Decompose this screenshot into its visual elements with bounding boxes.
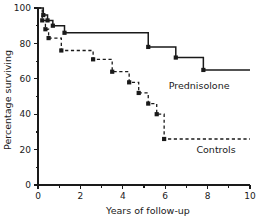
event-marker <box>47 36 51 40</box>
event-marker <box>201 68 205 72</box>
x-tick-label: 6 <box>162 191 168 201</box>
event-marker <box>162 137 166 141</box>
x-tick-label: 0 <box>35 191 41 201</box>
event-marker <box>110 70 114 74</box>
x-tick-label: 10 <box>244 191 256 201</box>
event-marker <box>146 45 150 49</box>
y-tick-label: 60 <box>20 74 32 84</box>
y-tick-label: 40 <box>20 109 32 119</box>
x-tick-label: 2 <box>78 191 84 201</box>
event-marker <box>127 80 131 84</box>
event-marker <box>59 48 63 52</box>
event-marker <box>137 91 141 95</box>
y-tick-label: 80 <box>20 39 32 49</box>
y-tick-label: 20 <box>20 145 32 155</box>
x-axis-title: Years of follow-up <box>105 205 190 216</box>
event-marker <box>40 18 44 22</box>
kaplan-meier-survival-chart: 020406080100 0246810 PrednisoloneControl… <box>0 0 259 221</box>
event-marker <box>91 57 95 61</box>
event-marker <box>174 55 178 59</box>
y-tick-label: 100 <box>14 3 31 13</box>
chart-svg: 020406080100 0246810 PrednisoloneControl… <box>0 0 259 221</box>
event-marker <box>43 27 47 31</box>
series-label-controls: Controls <box>196 144 235 155</box>
y-tick-label: 0 <box>25 180 31 190</box>
event-marker <box>146 101 150 105</box>
event-marker <box>155 112 159 116</box>
x-tick-label: 4 <box>120 191 126 201</box>
y-axis-title: Percentage surviving <box>2 50 13 150</box>
x-tick-label: 8 <box>205 191 211 201</box>
event-marker <box>51 24 55 28</box>
series-label-prednisolone: Prednisolone <box>169 80 230 91</box>
event-marker <box>62 31 66 35</box>
